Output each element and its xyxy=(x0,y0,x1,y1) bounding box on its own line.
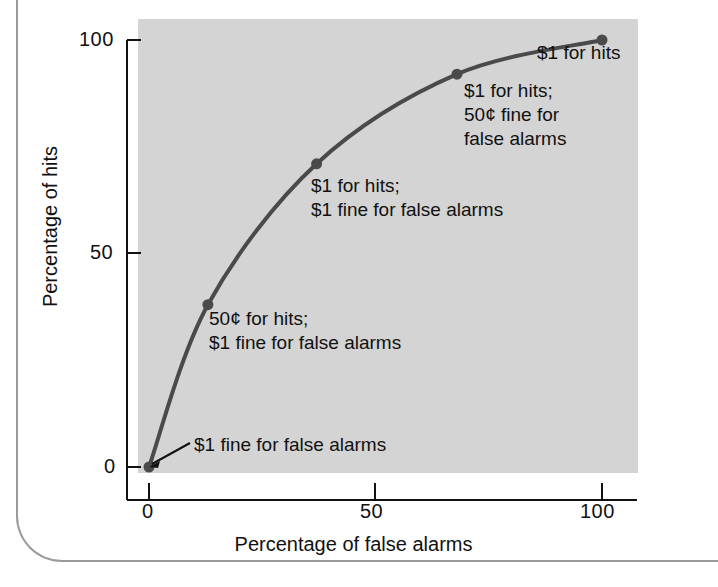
x-tick-label-100: 100 xyxy=(580,500,615,523)
annotation-origin: $1 fine for false alarms xyxy=(194,433,386,457)
y-tick-label-100: 100 xyxy=(79,28,114,51)
data-point-2 xyxy=(311,158,322,169)
x-axis-title: Percentage of false alarms xyxy=(0,533,659,556)
annotation-1-for-hits: $1 for hits xyxy=(537,41,620,65)
y-tick-label-0: 0 xyxy=(104,455,116,478)
x-tick-label-50: 50 xyxy=(360,500,383,523)
y-tick-label-50: 50 xyxy=(90,241,113,264)
x-tick-label-0: 0 xyxy=(142,500,154,523)
x-axis-title-text: Percentage of false alarms xyxy=(235,533,473,555)
annotation-50c-hits: 50¢ for hits; $1 fine for false alarms xyxy=(209,307,401,355)
y-axis-title: Percentage of hits xyxy=(39,117,62,337)
annotation-1-hits-1-fine: $1 for hits; $1 fine for false alarms xyxy=(311,174,503,222)
annotation-1-hits-50c-fine: $1 for hits; 50¢ fine for false alarms xyxy=(464,79,566,151)
data-point-3 xyxy=(452,69,463,80)
